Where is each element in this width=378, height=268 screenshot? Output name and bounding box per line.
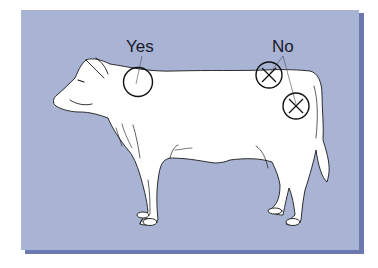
cow-diagram: Yes No bbox=[0, 0, 378, 268]
yes-label: Yes bbox=[126, 37, 154, 56]
cow-illustration bbox=[53, 58, 329, 226]
no-label: No bbox=[272, 37, 294, 56]
